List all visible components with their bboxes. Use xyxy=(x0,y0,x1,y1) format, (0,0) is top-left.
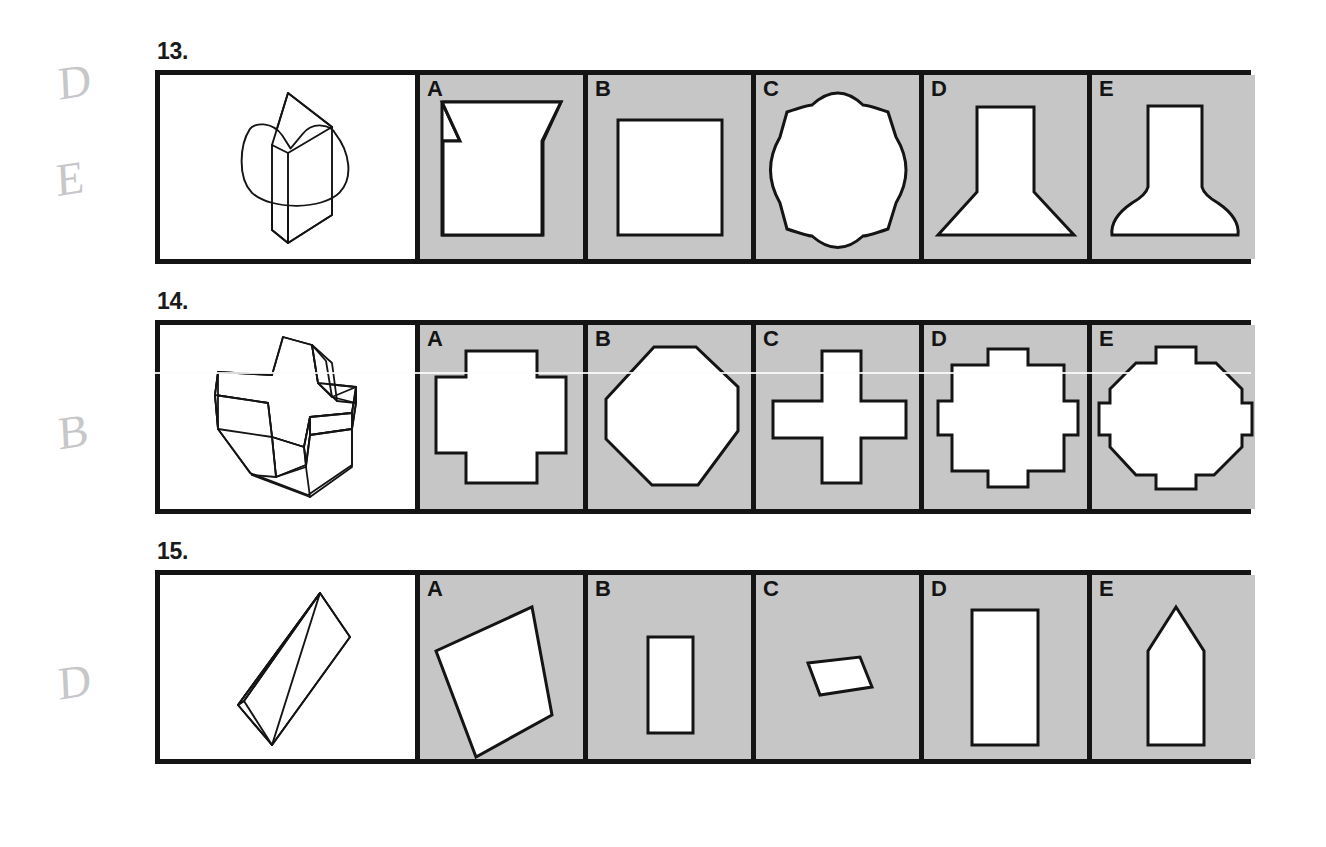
option-cell-14-A[interactable]: A xyxy=(420,325,583,509)
option-cell-15-D[interactable]: D xyxy=(924,575,1087,759)
option-cell-15-B[interactable]: B xyxy=(588,575,751,759)
option-cell-14-E[interactable]: E xyxy=(1092,325,1255,509)
question-14: 14. xyxy=(155,290,1251,514)
option-letter: D xyxy=(931,328,947,350)
question-15: 15. A xyxy=(155,540,1251,764)
pencil-mark-3: B xyxy=(57,402,90,460)
option-letter: A xyxy=(427,578,443,600)
pencil-mark-4: D xyxy=(57,652,93,710)
option-letter: B xyxy=(595,578,611,600)
option-cell-15-E[interactable]: E xyxy=(1092,575,1255,759)
option-cell-13-E[interactable]: E xyxy=(1092,75,1255,259)
option-cell-15-A[interactable]: A xyxy=(420,575,583,759)
answer-row: A B C D xyxy=(155,320,1251,514)
option-letter: E xyxy=(1099,578,1114,600)
option-cell-14-D[interactable]: D xyxy=(924,325,1087,509)
option-letter: D xyxy=(931,78,947,100)
question-number: 14. xyxy=(157,290,1251,313)
option-cell-13-A[interactable]: A xyxy=(420,75,583,259)
option-letter: B xyxy=(595,78,611,100)
option-letter: A xyxy=(427,78,443,100)
pencil-mark-1: D xyxy=(57,52,93,110)
option-cell-15-C[interactable]: C xyxy=(756,575,919,759)
option-letter: D xyxy=(931,578,947,600)
stimulus-panel-14 xyxy=(160,325,415,509)
question-13: 13. A xyxy=(155,40,1251,264)
option-cell-13-D[interactable]: D xyxy=(924,75,1087,259)
answer-row: A B C D xyxy=(155,570,1251,764)
option-cell-14-B[interactable]: B xyxy=(588,325,751,509)
option-letter: A xyxy=(427,328,443,350)
answer-row: A B C D xyxy=(155,70,1251,264)
option-letter: C xyxy=(763,328,779,350)
question-number: 15. xyxy=(157,540,1251,563)
stimulus-panel-15 xyxy=(160,575,415,759)
option-cell-13-C[interactable]: C xyxy=(756,75,919,259)
question-number: 13. xyxy=(157,40,1251,63)
option-letter: C xyxy=(763,78,779,100)
option-cell-13-B[interactable]: B xyxy=(588,75,751,259)
option-letter: C xyxy=(763,578,779,600)
option-letter: E xyxy=(1099,78,1114,100)
option-letter: B xyxy=(595,328,611,350)
test-page: D E B D 13. xyxy=(0,0,1326,847)
option-cell-14-C[interactable]: C xyxy=(756,325,919,509)
option-letter: E xyxy=(1099,328,1114,350)
stimulus-panel-13 xyxy=(160,75,415,259)
pencil-mark-2: E xyxy=(55,150,86,208)
